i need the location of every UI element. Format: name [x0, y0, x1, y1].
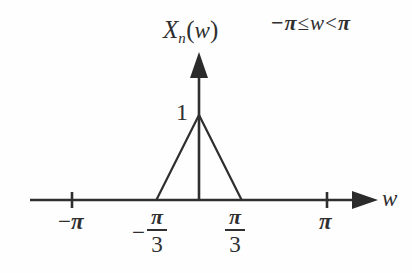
y-axis-label: Xn(w) — [163, 17, 218, 46]
x-axis-label: w — [382, 187, 397, 210]
tick-label-pos-pi-over-3: π 3 — [225, 206, 245, 256]
tick-neg-pi-sign: − — [58, 209, 71, 234]
tick-neg-pi3-numerator: π — [148, 206, 166, 229]
tick-label-pos-pi: π — [319, 210, 332, 233]
tick-pos-pi3-fraction: π 3 — [225, 206, 245, 256]
range-pi-right: π — [338, 10, 351, 35]
range-pi-left: π — [285, 10, 298, 35]
tick-neg-pi-symbol: π — [71, 209, 84, 234]
range-leq-symbol: ≤ — [298, 11, 311, 35]
range-minus-sign: − — [271, 10, 285, 35]
peak-amplitude-label: 1 — [176, 100, 188, 124]
tick-neg-pi3-denominator: 3 — [151, 231, 163, 256]
y-axis-label-open-paren: ( — [186, 16, 194, 43]
tick-neg-pi3-sign: − — [132, 221, 145, 244]
y-axis-label-close-paren: ) — [210, 16, 218, 43]
range-annotation: −π≤w<π — [271, 12, 351, 34]
tick-neg-pi3-fraction: π 3 — [147, 206, 167, 256]
tick-label-neg-pi: −π — [58, 210, 84, 233]
tick-label-neg-pi-over-3: − π 3 — [132, 206, 167, 256]
range-variable: w — [310, 11, 325, 35]
y-axis-label-base: X — [163, 16, 178, 43]
y-axis-arrowhead — [190, 52, 208, 78]
figure-container: Xn(w) −π≤w<π 1 w −π π − π 3 π 3 — [0, 0, 412, 273]
range-lt-symbol: < — [325, 11, 338, 35]
x-axis-arrowhead — [352, 191, 378, 209]
tick-pos-pi-symbol: π — [319, 209, 332, 234]
tick-pos-pi3-denominator: 3 — [229, 231, 241, 256]
y-axis-label-argument: w — [195, 18, 210, 43]
tick-pos-pi3-numerator: π — [226, 206, 244, 229]
